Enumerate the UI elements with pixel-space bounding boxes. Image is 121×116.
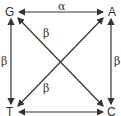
node-c: C [107, 106, 116, 116]
edge-label-top: α [58, 1, 65, 12]
edge-label-bottom: α [58, 114, 65, 116]
edges-canvas [0, 0, 121, 116]
node-t: T [6, 106, 13, 116]
edge-label-diag-upper: β [43, 28, 49, 39]
edge-label-left: β [1, 56, 7, 67]
edge-label-right: β [114, 56, 120, 67]
node-g: G [5, 6, 14, 18]
node-a: A [108, 6, 116, 18]
edge-label-diag-lower: β [43, 83, 49, 94]
